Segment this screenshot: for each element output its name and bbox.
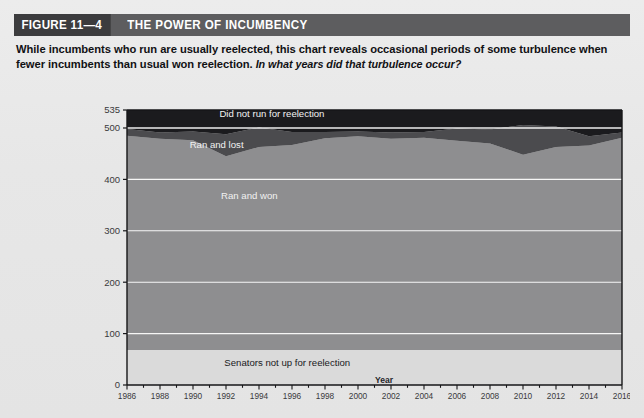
y-tick-label: 100 bbox=[104, 328, 120, 339]
figure-header-bar: FIGURE 11—4 THE POWER OF INCUMBENCY bbox=[14, 14, 630, 36]
x-axis-title: Year bbox=[375, 375, 394, 385]
x-tick-label: 2004 bbox=[415, 391, 434, 401]
x-tick-label: 2012 bbox=[547, 391, 566, 401]
y-tick-label: 0 bbox=[115, 379, 120, 390]
figure-caption: While incumbents who run are usually ree… bbox=[16, 42, 628, 71]
x-tick-label: 1994 bbox=[250, 391, 269, 401]
y-tick-label: 200 bbox=[104, 277, 120, 288]
area-bands bbox=[127, 110, 622, 385]
y-tick-label: 535 bbox=[104, 104, 120, 115]
page-background: FIGURE 11—4 THE POWER OF INCUMBENCY Whil… bbox=[0, 0, 644, 418]
x-tick-label: 1988 bbox=[151, 391, 170, 401]
figure-card: FIGURE 11—4 THE POWER OF INCUMBENCY Whil… bbox=[14, 14, 630, 404]
y-tick-label: 300 bbox=[104, 225, 120, 236]
x-tick-label: 1998 bbox=[316, 391, 335, 401]
x-tick-label: 2014 bbox=[580, 391, 599, 401]
chart-container: 0100200300400500535 19861988199019921994… bbox=[14, 86, 630, 404]
x-tick-label: 1986 bbox=[118, 391, 137, 401]
x-tick-label: 2000 bbox=[349, 391, 368, 401]
x-axis-ticks: 1986198819901992199419961998200020022004… bbox=[118, 385, 630, 401]
stacked-area-chart: 0100200300400500535 19861988199019921994… bbox=[14, 86, 630, 404]
x-tick-label: 1996 bbox=[283, 391, 302, 401]
band-label: Ran and won bbox=[221, 190, 278, 201]
area-band bbox=[127, 136, 622, 350]
x-tick-label: 2008 bbox=[481, 391, 500, 401]
x-tick-label: 2010 bbox=[514, 391, 533, 401]
y-tick-label: 500 bbox=[104, 122, 120, 133]
caption-question-text: In what years did that turbulence occur? bbox=[256, 58, 462, 70]
y-tick-label: 400 bbox=[104, 174, 120, 185]
band-label: Senators not up for reelection bbox=[224, 357, 350, 368]
y-axis-ticks: 0100200300400500535 bbox=[104, 104, 127, 390]
figure-title: THE POWER OF INCUMBENCY bbox=[118, 14, 308, 36]
x-tick-label: 2006 bbox=[448, 391, 467, 401]
x-tick-label: 1992 bbox=[217, 391, 236, 401]
figure-number-label: FIGURE 11—4 bbox=[14, 14, 110, 36]
x-tick-label: 2016 bbox=[613, 391, 630, 401]
band-label: Ran and lost bbox=[190, 139, 244, 150]
x-tick-label: 1990 bbox=[184, 391, 203, 401]
band-label: Did not run for reelection bbox=[219, 108, 324, 119]
x-tick-label: 2002 bbox=[382, 391, 401, 401]
